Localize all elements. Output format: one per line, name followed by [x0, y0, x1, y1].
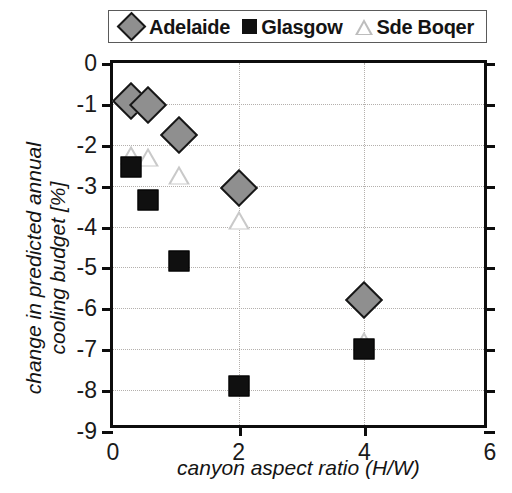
square-marker-icon	[242, 19, 257, 34]
y-tick-label: -5	[77, 254, 97, 281]
data-point-sde-boqer	[228, 211, 250, 230]
y-axis-title: change in predicted annual cooling budge…	[22, 118, 70, 418]
y-tick-label: -4	[77, 213, 97, 240]
y-tick-mark-right	[484, 349, 495, 352]
data-point-sde-boqer	[168, 166, 190, 185]
gridline-horizontal	[113, 349, 484, 350]
y-tick-mark	[102, 104, 113, 107]
y-tick-label: -3	[77, 172, 97, 199]
gridline-vertical	[239, 63, 240, 425]
data-point-glasgow	[137, 189, 158, 210]
y-tick-mark	[102, 349, 113, 352]
y-tick-label: 0	[84, 50, 97, 77]
y-tick-mark	[102, 308, 113, 311]
y-tick-mark-right	[484, 63, 495, 66]
y-tick-mark	[102, 63, 113, 66]
data-point-glasgow	[168, 251, 189, 272]
gridline-horizontal	[113, 390, 484, 391]
y-tick-mark	[102, 186, 113, 189]
x-tick-mark	[239, 425, 242, 436]
gridline-horizontal	[113, 227, 484, 228]
gridlines	[113, 63, 484, 425]
y-tick-mark-right	[484, 186, 495, 189]
gridline-horizontal	[113, 186, 484, 187]
y-tick-mark-right	[484, 267, 495, 270]
y-tick-label: -7	[77, 336, 97, 363]
gridline-vertical	[364, 63, 365, 425]
y-tick-label: -9	[77, 418, 97, 445]
triangle-marker-icon	[355, 19, 373, 35]
data-point-glasgow	[354, 339, 375, 360]
legend-label-sde-boqer: Sde Boqer	[377, 17, 474, 37]
y-tick-mark	[102, 227, 113, 230]
legend-entry-sde-boqer[interactable]: Sde Boqer	[355, 17, 474, 37]
legend-label-adelaide: Adelaide	[149, 17, 230, 37]
y-tick-label: -8	[77, 377, 97, 404]
y-tick-mark	[102, 431, 113, 434]
chart-legend: Adelaide Glasgow Sde Boqer	[108, 10, 487, 43]
gridline-horizontal	[113, 145, 484, 146]
y-tick-mark-right	[484, 227, 495, 230]
legend-entry-glasgow[interactable]: Glasgow	[242, 17, 342, 37]
legend-entry-adelaide[interactable]: Adelaide	[121, 16, 230, 37]
x-tick-mark	[364, 425, 367, 436]
data-point-glasgow	[120, 157, 141, 178]
y-tick-mark-right	[484, 145, 495, 148]
diamond-marker-icon	[117, 12, 147, 42]
y-tick-label: -2	[77, 131, 97, 158]
y-tick-label: -6	[77, 295, 97, 322]
y-tick-mark-right	[484, 104, 495, 107]
data-point-glasgow	[228, 376, 249, 397]
y-tick-mark-right	[484, 431, 495, 434]
x-axis-title: canyon aspect ratio (H/W)	[110, 456, 487, 480]
plot-area: 0-1-2-3-4-5-6-7-8-9 0246	[110, 60, 487, 428]
gridline-horizontal	[113, 308, 484, 309]
y-tick-mark	[102, 267, 113, 270]
y-tick-label: -1	[77, 90, 97, 117]
gridline-horizontal	[113, 104, 484, 105]
y-tick-mark-right	[484, 390, 495, 393]
legend-label-glasgow: Glasgow	[261, 17, 342, 37]
y-tick-mark	[102, 390, 113, 393]
y-tick-mark-right	[484, 308, 495, 311]
scatter-chart-figure: Adelaide Glasgow Sde Boqer 0-1-2-3-4-5-6…	[0, 0, 512, 493]
y-tick-mark	[102, 145, 113, 148]
